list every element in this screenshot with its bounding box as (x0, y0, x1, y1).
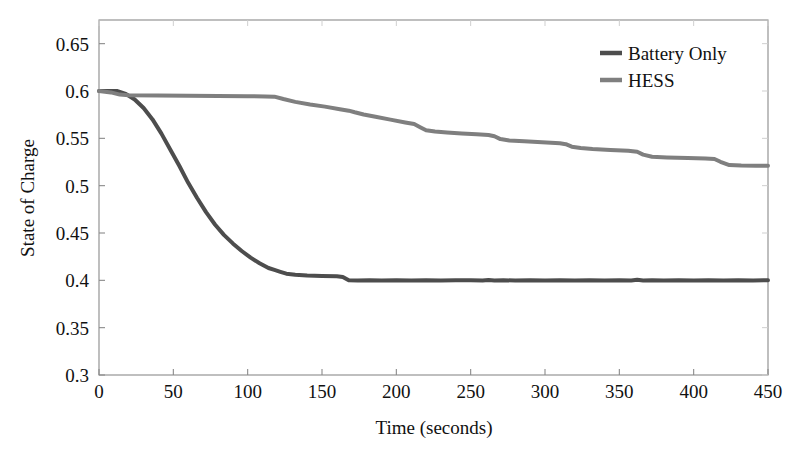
x-tick-label-0: 0 (94, 381, 104, 402)
x-tick-label-2: 100 (233, 381, 262, 402)
x-tick-label-9: 450 (754, 381, 783, 402)
x-tick-label-8: 400 (679, 381, 708, 402)
y-axis-ticks (99, 44, 768, 375)
x-axis-tick-labels: 050100150200250300350400450 (94, 381, 782, 402)
y-tick-label-5: 0.55 (56, 128, 89, 149)
state-of-charge-line-chart: 050100150200250300350400450 0.30.350.40.… (0, 0, 794, 449)
series-line-hess (99, 91, 768, 166)
series-line-battery-only (99, 91, 768, 281)
y-tick-label-0: 0.3 (65, 365, 89, 386)
data-series-group (99, 91, 768, 281)
y-tick-label-2: 0.4 (65, 270, 89, 291)
y-tick-label-4: 0.5 (65, 176, 89, 197)
chart-figure: 050100150200250300350400450 0.30.350.40.… (0, 0, 794, 449)
x-tick-label-4: 200 (382, 381, 411, 402)
x-tick-label-1: 50 (164, 381, 183, 402)
legend-label-battery-only: Battery Only (628, 43, 727, 64)
y-tick-label-6: 0.6 (65, 81, 89, 102)
x-axis-title: Time (seconds) (376, 417, 493, 439)
y-axis-title: State of Charge (17, 139, 38, 257)
y-tick-label-7: 0.65 (56, 34, 89, 55)
x-tick-label-6: 300 (531, 381, 560, 402)
y-tick-label-3: 0.45 (56, 223, 89, 244)
x-tick-label-7: 350 (605, 381, 634, 402)
x-tick-label-5: 250 (456, 381, 485, 402)
y-axis-tick-labels: 0.30.350.40.450.50.550.60.65 (56, 34, 90, 386)
y-tick-label-1: 0.35 (56, 318, 89, 339)
x-tick-label-3: 150 (308, 381, 337, 402)
chart-legend: Battery OnlyHESS (600, 43, 727, 91)
legend-label-hess: HESS (628, 70, 674, 91)
